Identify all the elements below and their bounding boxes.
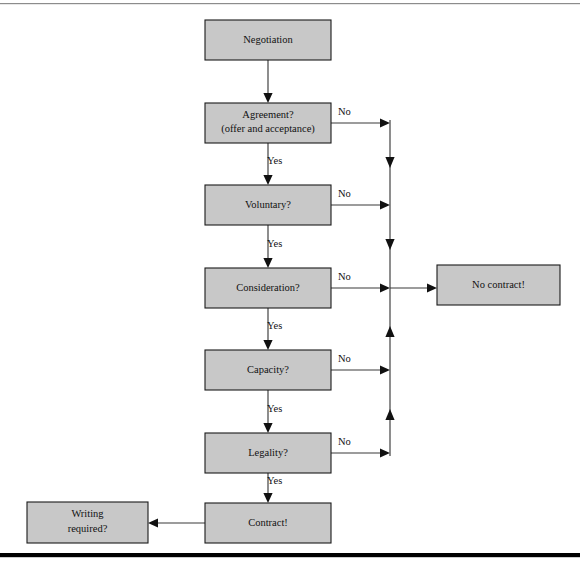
node-contract[interactable]: Contract! bbox=[205, 503, 331, 543]
edge-trunk-to-no-contract bbox=[390, 283, 437, 292]
edge-contract-to-writing bbox=[148, 518, 205, 527]
node-negotiation-label: Negotiation bbox=[243, 34, 293, 45]
node-writing-required-label: Writing bbox=[71, 508, 104, 519]
bottom-rule-divider bbox=[0, 553, 580, 557]
edge-capacity-no bbox=[331, 365, 390, 374]
node-layer: Negotiation Agreement? (offer and accept… bbox=[27, 20, 560, 543]
edge-consideration-no bbox=[331, 283, 390, 292]
node-legality-label: Legality? bbox=[248, 447, 288, 458]
top-rule-divider bbox=[0, 3, 580, 4]
node-negotiation[interactable]: Negotiation bbox=[205, 20, 331, 60]
node-legality[interactable]: Legality? bbox=[205, 433, 331, 473]
node-capacity-label: Capacity? bbox=[247, 364, 289, 375]
node-consideration[interactable]: Consideration? bbox=[205, 268, 331, 308]
node-contract-label: Contract! bbox=[248, 517, 288, 528]
edge-label-no-legality: No bbox=[338, 436, 351, 447]
flowchart-figure: Negotiation Agreement? (offer and accept… bbox=[0, 0, 580, 575]
node-agreement-sublabel: (offer and acceptance) bbox=[221, 123, 315, 135]
node-writing-required[interactable]: Writing required? bbox=[27, 502, 148, 543]
edge-voluntary-no bbox=[331, 200, 390, 209]
edge-label-yes-agreement: Yes bbox=[267, 155, 282, 166]
edge-label-yes-voluntary: Yes bbox=[267, 238, 282, 249]
edge-label-yes-capacity: Yes bbox=[267, 403, 282, 414]
edge-agreement-no bbox=[331, 118, 390, 127]
edge-label-yes-consideration: Yes bbox=[267, 320, 282, 331]
node-no-contract-label: No contract! bbox=[472, 279, 525, 290]
edge-label-no-agreement: No bbox=[338, 106, 351, 117]
flowchart-canvas: Negotiation Agreement? (offer and accept… bbox=[0, 0, 580, 575]
node-no-contract[interactable]: No contract! bbox=[437, 265, 560, 305]
node-agreement[interactable]: Agreement? (offer and acceptance) bbox=[205, 103, 331, 143]
node-voluntary-label: Voluntary? bbox=[245, 199, 291, 210]
node-voluntary[interactable]: Voluntary? bbox=[205, 185, 331, 225]
node-capacity[interactable]: Capacity? bbox=[205, 350, 331, 390]
edge-label-no-voluntary: No bbox=[338, 188, 351, 199]
node-writing-required-sublabel: required? bbox=[68, 523, 108, 534]
node-consideration-label: Consideration? bbox=[236, 282, 300, 293]
edge-negotiation-to-agreement bbox=[263, 60, 272, 103]
edge-label-yes-legality: Yes bbox=[267, 475, 282, 486]
node-agreement-label: Agreement? bbox=[242, 109, 294, 120]
edge-label-no-capacity: No bbox=[338, 353, 351, 364]
edge-label-no-consideration: No bbox=[338, 271, 351, 282]
edge-legality-no bbox=[331, 448, 390, 457]
